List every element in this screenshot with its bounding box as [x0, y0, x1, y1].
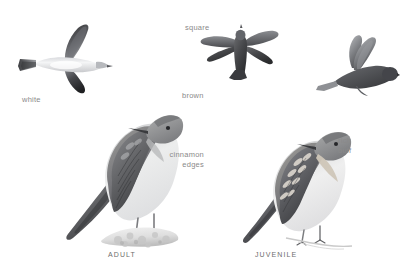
head	[382, 67, 398, 81]
bill	[397, 73, 400, 77]
right-wing	[246, 31, 279, 46]
label-brown: brown	[182, 91, 204, 101]
label-rich: rich	[338, 136, 351, 146]
eye	[166, 126, 170, 130]
label-buff: buff	[338, 146, 351, 156]
head	[236, 30, 246, 40]
bill	[240, 24, 243, 28]
label-edges: edges	[148, 160, 204, 170]
twig-perch	[286, 238, 352, 246]
illustration-plate: white square brown cinnamon edges rich b…	[0, 0, 407, 280]
right-wing-lower	[245, 46, 273, 64]
left-wing	[201, 36, 236, 47]
white-underparts	[50, 61, 82, 69]
bill	[107, 65, 113, 68]
caption-juvenile: JUVENILE	[255, 251, 297, 258]
label-square: square	[185, 23, 209, 33]
flying-bird-banking	[308, 34, 400, 96]
label-cinnamon: cinnamon	[148, 150, 204, 160]
caption-adult: ADULT	[108, 251, 136, 258]
square-tail	[316, 81, 338, 91]
perched-juvenile-bird	[240, 112, 358, 246]
square-tail	[229, 70, 247, 80]
left-wing-lower	[207, 46, 237, 62]
label-white: white	[22, 95, 41, 105]
